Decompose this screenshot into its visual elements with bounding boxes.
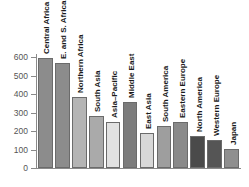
bar-category-label: Western Europe: [212, 75, 220, 136]
bar-category-label: E. and S. Africa: [60, 1, 68, 59]
bar-group: Northern Africa: [72, 0, 87, 168]
y-axis-tick: [31, 168, 36, 169]
bars-container: Central AfricaE. and S. AfricaNorthern A…: [37, 0, 240, 168]
y-axis-tick: [31, 131, 36, 132]
bar-category-label: Asia–Pacific: [111, 71, 119, 118]
y-axis-tick-label: 500: [0, 71, 28, 80]
bar[interactable]: [224, 149, 239, 168]
bar[interactable]: [106, 122, 121, 168]
bar[interactable]: [157, 126, 172, 168]
y-axis-tick-label: 400: [0, 90, 28, 99]
bar[interactable]: [38, 58, 53, 168]
bar-category-label: Eastern Europe: [178, 59, 186, 118]
bar[interactable]: [89, 116, 104, 168]
bar-category-label: South Asia: [94, 70, 102, 111]
bar-group: Middle East: [123, 0, 138, 168]
y-axis-tick-label: 100: [0, 145, 28, 154]
bar[interactable]: [55, 63, 70, 168]
bar[interactable]: [207, 140, 222, 168]
bar[interactable]: [190, 136, 205, 168]
bar[interactable]: [72, 97, 87, 168]
bar-group: Central Africa: [38, 0, 53, 168]
y-axis-tick: [31, 94, 36, 95]
bar-group: South Asia: [89, 0, 104, 168]
bar-category-label: South America: [161, 66, 169, 122]
bar-category-label: East Asia: [144, 93, 152, 129]
y-axis-tick: [31, 150, 36, 151]
bar-group: Japan: [224, 0, 239, 168]
y-axis-tick-label: 600: [0, 53, 28, 62]
bar-chart: 6005004003002001000 Central AfricaE. and…: [0, 0, 249, 187]
bar-group: Asia–Pacific: [106, 0, 121, 168]
y-axis-tick-label: 200: [0, 127, 28, 136]
bar[interactable]: [123, 102, 138, 168]
y-axis-tick: [31, 113, 36, 114]
y-axis-tick: [31, 57, 36, 58]
bar-category-label: Middle East: [128, 54, 136, 98]
bar[interactable]: [140, 133, 155, 168]
bar-group: South America: [157, 0, 172, 168]
y-axis-tick: [31, 76, 36, 77]
bar-category-label: Central Africa: [43, 2, 51, 54]
y-axis-tick-label: 0: [0, 164, 28, 173]
bar-group: Western Europe: [207, 0, 222, 168]
bar-group: E. and S. Africa: [55, 0, 70, 168]
bar[interactable]: [173, 122, 188, 168]
bar-group: East Asia: [140, 0, 155, 168]
x-axis-line: [36, 168, 241, 169]
y-axis-tick-label: 300: [0, 108, 28, 117]
bar-group: North America: [190, 0, 205, 168]
bar-category-label: North America: [195, 77, 203, 132]
bar-group: Eastern Europe: [173, 0, 188, 168]
bar-category-label: Northern Africa: [77, 34, 85, 92]
bar-category-label: Japan: [229, 122, 237, 145]
